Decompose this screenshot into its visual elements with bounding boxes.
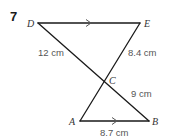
- vertex-label-b: B: [152, 116, 158, 127]
- length-label-cb: 9 cm: [131, 88, 152, 99]
- vertex-label-d: D: [26, 18, 35, 29]
- vertex-label-c: C: [109, 75, 116, 86]
- similar-triangles-diagram: 7 D E C A B 12 cm 8.4 cm 9 cm 8.7 cm: [0, 0, 172, 140]
- length-label-ab: 8.7 cm: [100, 127, 129, 138]
- vertex-label-e: E: [143, 18, 150, 29]
- segment-db: [38, 23, 149, 121]
- length-label-ec: 8.4 cm: [128, 47, 157, 58]
- question-number: 7: [10, 9, 17, 24]
- segment-ea: [80, 23, 140, 121]
- length-label-dc: 12 cm: [38, 47, 64, 58]
- vertex-label-a: A: [68, 116, 76, 127]
